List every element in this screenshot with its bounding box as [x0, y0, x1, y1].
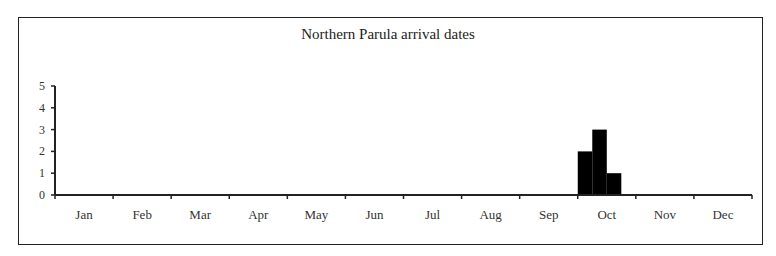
- x-tick-label: Jun: [365, 207, 384, 222]
- x-tick-label: May: [304, 207, 328, 222]
- y-tick-label: 5: [39, 79, 45, 93]
- x-tick-label: Apr: [248, 207, 269, 222]
- y-tick-label: 1: [39, 166, 45, 180]
- histogram-bar: [578, 151, 593, 195]
- histogram-bar: [607, 173, 622, 195]
- x-tick-label: Jul: [425, 207, 441, 222]
- y-tick-label: 2: [39, 144, 45, 158]
- x-tick-label: Feb: [132, 207, 152, 222]
- x-tick-label: Mar: [189, 207, 211, 222]
- histogram-bar: [592, 130, 607, 195]
- x-tick-label: Nov: [654, 207, 677, 222]
- x-tick-label: Sep: [539, 207, 559, 222]
- chart-plot: 012345JanFebMarAprMayJunJulAugSepOctNovD…: [0, 0, 776, 256]
- y-tick-label: 4: [39, 101, 45, 115]
- x-tick-label: Oct: [597, 207, 616, 222]
- x-tick-label: Dec: [712, 207, 733, 222]
- y-tick-label: 0: [39, 188, 45, 202]
- x-tick-label: Jan: [75, 207, 93, 222]
- y-tick-label: 3: [39, 123, 45, 137]
- x-tick-label: Aug: [479, 207, 502, 222]
